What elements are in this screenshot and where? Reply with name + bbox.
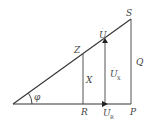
vector-ur-subscript: R bbox=[110, 114, 114, 120]
point-z-label: Z bbox=[73, 45, 81, 55]
angle-arc-icon bbox=[29, 93, 33, 104]
point-r-label: R bbox=[80, 107, 88, 117]
point-s-label: S bbox=[126, 8, 132, 18]
vector-u-label: U bbox=[99, 30, 107, 40]
hypotenuse-line bbox=[13, 19, 131, 104]
segment-q-label: Q bbox=[136, 57, 144, 67]
vector-ux-subscript: X bbox=[117, 75, 121, 81]
phasor-triangle-diagram: φ S Z R P X Q U · U X · U R · bbox=[0, 0, 153, 126]
segment-x-label: X bbox=[85, 75, 93, 85]
point-p-label: P bbox=[129, 107, 137, 117]
angle-phi-label: φ bbox=[34, 92, 41, 102]
